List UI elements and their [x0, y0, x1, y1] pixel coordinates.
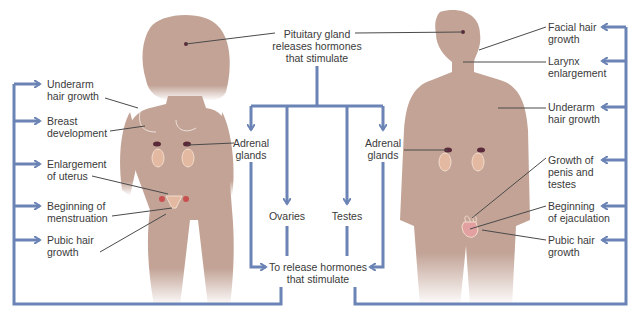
label-line: growth — [47, 246, 94, 258]
male-penis-testes-label: Growth of penis and testes — [548, 154, 594, 190]
label-line: hair growth — [47, 90, 99, 102]
release-line-1: To release hormones — [262, 261, 374, 273]
male-underarm-label: Underarm hair growth — [548, 101, 600, 125]
adrenal-right-label: Adrenal glands — [356, 137, 410, 161]
male-pubic-hair-label: Pubic hair growth — [548, 234, 595, 258]
label-line: growth — [548, 246, 595, 258]
label-line: growth — [548, 33, 596, 45]
label-line: Pubic hair — [548, 234, 595, 246]
pituitary-line-2: releases hormones — [262, 40, 372, 52]
label-line: testes — [548, 178, 594, 190]
ovaries-label: Ovaries — [262, 210, 312, 222]
label-line: Breast — [47, 115, 107, 127]
pituitary-label: Pituitary gland releases hormones that s… — [262, 28, 372, 64]
label-line: Beginning — [548, 200, 610, 212]
label-line: of ejaculation — [548, 212, 610, 224]
label-line: of uterus — [47, 170, 107, 182]
adrenal-right-line-1: Adrenal — [356, 137, 410, 149]
label-line: Enlargement — [47, 158, 107, 170]
label-line: Underarm — [47, 78, 99, 90]
label-line: menstruation — [47, 212, 108, 224]
female-menstruation-label: Beginning of menstruation — [47, 200, 108, 224]
male-larynx-label: Larynx enlargement — [548, 55, 606, 79]
label-line: development — [47, 127, 107, 139]
adrenal-left-line-1: Adrenal — [226, 137, 276, 149]
pituitary-line-1: Pituitary gland — [262, 28, 372, 40]
label-line: Beginning of — [47, 200, 108, 212]
adrenal-left-line-2: glands — [226, 149, 276, 161]
pituitary-line-3: that stimulate — [262, 52, 372, 64]
label-line: Underarm — [548, 101, 600, 113]
female-underarm-label: Underarm hair growth — [47, 78, 99, 102]
label-line: hair growth — [548, 113, 600, 125]
release-label: To release hormones that stimulate — [262, 261, 374, 285]
male-facial-hair-label: Facial hair growth — [548, 21, 596, 45]
adrenal-right-line-2: glands — [356, 149, 410, 161]
female-uterus-label: Enlargement of uterus — [47, 158, 107, 182]
label-line: Larynx — [548, 55, 606, 67]
female-pubic-hair-label: Pubic hair growth — [47, 234, 94, 258]
label-line: penis and — [548, 166, 594, 178]
label-line: Pubic hair — [47, 234, 94, 246]
puberty-hormone-diagram: Pituitary gland releases hormones that s… — [0, 0, 636, 316]
male-ejaculation-label: Beginning of ejaculation — [548, 200, 610, 224]
label-line: enlargement — [548, 67, 606, 79]
male-silhouette — [400, 10, 530, 306]
release-line-2: that stimulate — [262, 273, 374, 285]
testes-label: Testes — [322, 210, 372, 222]
female-silhouette — [120, 15, 234, 306]
female-breast-label: Breast development — [47, 115, 107, 139]
label-line: Facial hair — [548, 21, 596, 33]
adrenal-left-label: Adrenal glands — [226, 137, 276, 161]
label-line: Growth of — [548, 154, 594, 166]
